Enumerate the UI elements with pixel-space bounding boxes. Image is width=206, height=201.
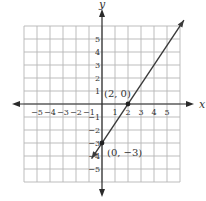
x-tick-label: −2: [70, 108, 82, 117]
x-tick-label: −5: [31, 108, 43, 117]
x-tick-label: −4: [44, 108, 56, 117]
x-axis-left-arrow-icon: [12, 101, 20, 107]
x-tick-label: 4: [151, 108, 156, 117]
y-tick-label: 2: [95, 74, 100, 83]
y-tick-label: 5: [95, 35, 100, 44]
y-tick-label: −1: [88, 113, 100, 122]
y-tick-label: −2: [88, 126, 100, 135]
y-axis-label: y: [98, 0, 106, 11]
y-tick-label: −3: [88, 139, 100, 148]
point-label: (2, 0): [104, 88, 131, 99]
x-axis-right-arrow-icon: [186, 101, 194, 107]
y-tick-label: 4: [95, 48, 100, 57]
y-tick-label: −5: [88, 165, 100, 174]
point-marker: [126, 102, 131, 107]
y-tick-label: 1: [95, 87, 100, 96]
y-axis-down-arrow-icon: [99, 189, 105, 197]
point-marker: [100, 141, 105, 146]
x-axis-label: x: [199, 98, 206, 111]
x-tick-label: 3: [138, 108, 143, 117]
coordinate-plane: xy −5−4−3−2−11234554321−1−2−3−4−5 (2, 0)…: [0, 0, 206, 201]
x-tick-label: 1: [112, 108, 117, 117]
x-tick-label: −3: [57, 108, 69, 117]
y-tick-label: 3: [95, 61, 100, 70]
x-tick-label: 2: [125, 108, 130, 117]
point-label: (0, −3): [107, 147, 142, 158]
x-tick-label: 5: [164, 108, 169, 117]
labeled-points: (2, 0)(0, −3): [100, 88, 143, 158]
